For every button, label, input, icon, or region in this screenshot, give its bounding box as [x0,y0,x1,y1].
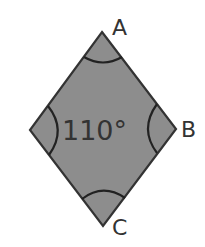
rhombus-diagram: 110° A B C [0,0,205,247]
vertex-label-C: C [112,215,127,240]
vertex-label-B: B [181,117,196,142]
angle-value-label: 110° [62,115,127,146]
vertex-label-A: A [112,15,127,40]
